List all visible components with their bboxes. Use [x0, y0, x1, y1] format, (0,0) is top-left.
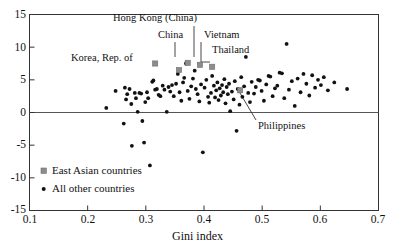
annotation-vietnam: Vietnam [204, 29, 240, 40]
x-axis-title: Gini index [0, 229, 395, 244]
xtick-label-0.2: 0.2 [76, 213, 100, 225]
xtick-label-0.6: 0.6 [308, 213, 332, 225]
xtick-label-0.5: 0.5 [250, 213, 274, 225]
xtick-label-0.7: 0.7 [366, 213, 390, 225]
ytick-label-5: 5 [2, 73, 26, 85]
legend-label-east-asian-countries: East Asian countries [52, 164, 142, 176]
xtick-label-0.1: 0.1 [18, 213, 42, 225]
ytick-label-neg5: -5 [2, 138, 26, 150]
annotation-china: China [158, 29, 183, 40]
annotation-korea-rep-of: Korea, Rep. of [71, 52, 133, 63]
ytick-label-15: 15 [2, 8, 26, 20]
annotation-philippines: Philippines [258, 120, 305, 131]
scatter-chart-figure: 15 10 5 0 -5 -10 -15 0.1 0.2 0.3 0.4 0.5… [0, 0, 395, 249]
annotation-thailand: Thailand [212, 44, 249, 55]
xtick-label-0.4: 0.4 [192, 213, 216, 225]
xtick-label-0.3: 0.3 [134, 213, 158, 225]
plot-canvas [0, 0, 395, 249]
annotation-hong-kong-china: Hong Kong (China) [113, 12, 197, 23]
ytick-label-10: 10 [2, 41, 26, 53]
legend-label-all-other-countries: All other countries [52, 182, 134, 194]
ytick-label-0: 0 [2, 106, 26, 118]
ytick-label-neg10: -10 [2, 171, 26, 183]
